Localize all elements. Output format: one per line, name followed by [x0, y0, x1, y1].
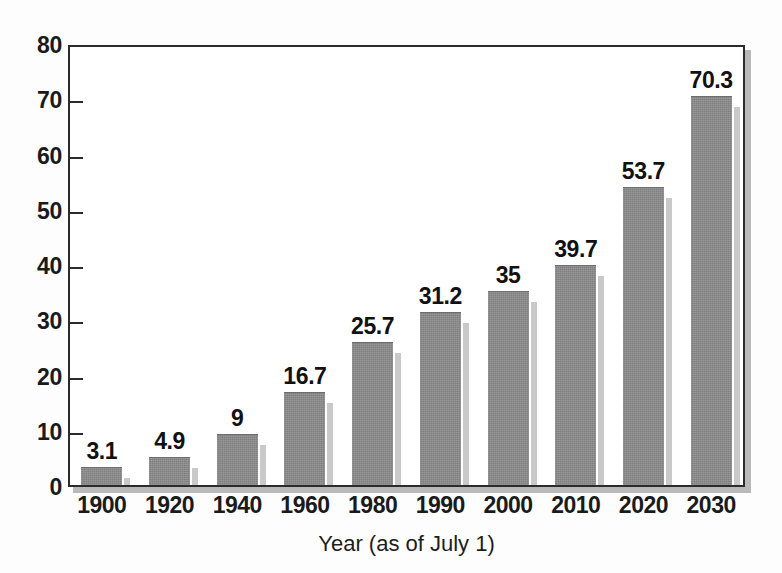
bar-chart: 01020304050607080 3.14.9916.725.731.2353…	[0, 0, 782, 573]
bar[interactable]	[352, 342, 393, 485]
bar-group[interactable]	[420, 43, 461, 485]
bar-shadow	[260, 445, 266, 485]
bar-shadow	[531, 302, 537, 485]
y-axis-labels: 01020304050607080	[0, 45, 62, 487]
plot-area: 3.14.9916.725.731.23539.753.770.3	[68, 45, 745, 487]
y-axis-tick-label: 60	[4, 145, 62, 168]
bar-group[interactable]	[284, 43, 325, 485]
bar-shadow	[395, 353, 401, 485]
y-axis-tick-label: 30	[4, 310, 62, 333]
x-axis-labels: 1900192019401960198019902000201020202030	[68, 494, 745, 526]
bar-value-label: 4.9	[129, 430, 210, 453]
bar[interactable]	[284, 392, 325, 485]
plot-inner: 3.14.9916.725.731.23539.753.770.3	[70, 47, 743, 485]
bar-value-label: 16.7	[264, 365, 345, 388]
bar[interactable]	[149, 457, 190, 485]
bar-value-label: 53.7	[603, 160, 684, 183]
bar-shadow	[666, 198, 672, 485]
bar-value-label: 70.3	[671, 69, 752, 92]
bar[interactable]	[81, 467, 122, 485]
bar-shadow	[463, 323, 469, 485]
y-axis-tick-label: 20	[4, 366, 62, 389]
bar-group[interactable]	[555, 43, 596, 485]
bar-group[interactable]	[352, 43, 393, 485]
bar[interactable]	[217, 434, 258, 485]
bar-value-label: 25.7	[332, 315, 413, 338]
bar-shadow	[734, 107, 740, 485]
bar[interactable]	[420, 312, 461, 485]
bar[interactable]	[623, 187, 664, 485]
bar-shadow	[192, 468, 198, 485]
bar-value-label: 39.7	[535, 238, 616, 261]
y-axis-tick-label: 50	[4, 200, 62, 223]
y-axis-tick-label: 10	[4, 421, 62, 444]
bar-group[interactable]	[623, 43, 664, 485]
y-axis-tick-label: 40	[4, 255, 62, 278]
bar-group[interactable]	[691, 43, 732, 485]
bar[interactable]	[488, 291, 529, 485]
x-axis-tick-label: 2030	[671, 494, 751, 517]
bar-group[interactable]	[81, 43, 122, 485]
bar[interactable]	[691, 96, 732, 485]
x-axis-title: Year (as of July 1)	[68, 533, 745, 555]
bar-value-label: 35	[468, 264, 549, 287]
y-axis-tick-label: 70	[4, 89, 62, 112]
bar[interactable]	[555, 265, 596, 485]
y-axis-tick-label: 0	[4, 476, 62, 499]
bar-group[interactable]	[149, 43, 190, 485]
bar-shadow	[124, 478, 130, 485]
bar-shadow	[598, 276, 604, 485]
bar-shadow	[327, 403, 333, 485]
bar-value-label: 9	[197, 407, 278, 430]
y-axis-tick-label: 80	[4, 34, 62, 57]
bar-value-label: 31.2	[400, 285, 481, 308]
